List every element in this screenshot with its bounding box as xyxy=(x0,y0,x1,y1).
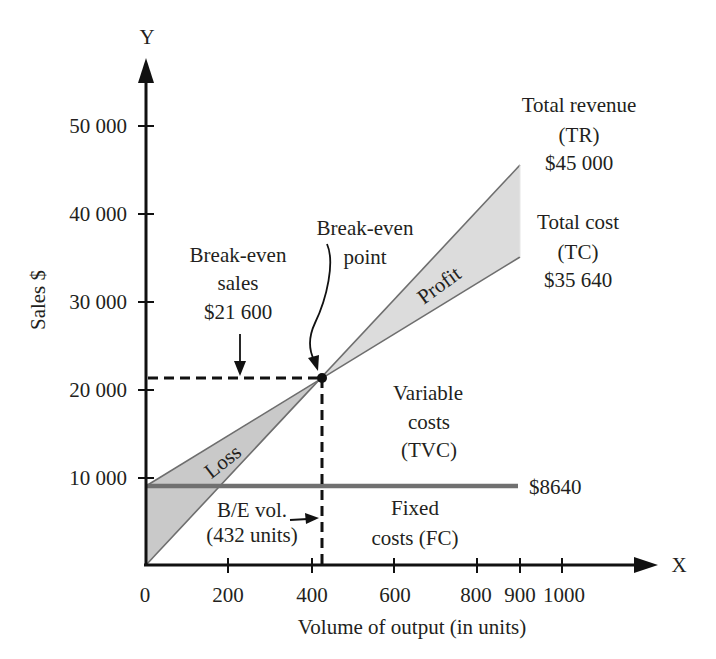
be-point-arrow xyxy=(310,244,330,360)
be-point-arrow-head-icon xyxy=(308,355,319,371)
y-axis-letter: Y xyxy=(139,25,154,49)
x-tick-label: 0 xyxy=(140,583,151,607)
x-axis-title: Volume of output (in units) xyxy=(298,615,526,639)
svg-text:Break-even: Break-even xyxy=(317,216,414,240)
fixed-costs-annotation: Fixed costs (FC) xyxy=(372,496,459,550)
svg-text:costs: costs xyxy=(408,410,450,434)
x-tick-label: 200 xyxy=(212,583,244,607)
variable-costs-annotation: Variable costs (TVC) xyxy=(393,381,463,462)
y-tick-label: 20 000 xyxy=(69,378,127,402)
svg-text:$35 640: $35 640 xyxy=(544,268,612,292)
be-vol-arrow-head-icon xyxy=(305,513,319,524)
svg-text:$45 000: $45 000 xyxy=(545,151,613,175)
svg-text:Break-even: Break-even xyxy=(190,243,287,267)
x-tick-label: 600 xyxy=(379,583,411,607)
break-even-point-marker xyxy=(317,373,327,383)
y-tick-label: 40 000 xyxy=(69,202,127,226)
be-vol-arrow xyxy=(290,519,308,520)
svg-text:costs (FC): costs (FC) xyxy=(372,526,459,550)
total-revenue-annotation: Total revenue (TR) $45 000 xyxy=(522,93,637,175)
fixed-cost-value-label: $8640 xyxy=(529,475,582,499)
y-axis-arrow-icon xyxy=(138,58,154,83)
break-even-point-annotation: Break-even point xyxy=(317,216,414,269)
x-axis-letter: X xyxy=(671,553,686,577)
svg-text:Total revenue: Total revenue xyxy=(522,93,637,117)
total-cost-line xyxy=(146,257,520,486)
x-axis-arrow-icon xyxy=(634,557,658,573)
svg-text:B/E vol.: B/E vol. xyxy=(217,498,287,522)
x-tick-label: 400 xyxy=(296,583,328,607)
x-tick-label: 900 xyxy=(504,583,536,607)
be-sales-arrow-head-icon xyxy=(234,361,246,376)
svg-text:(TVC): (TVC) xyxy=(401,438,457,462)
svg-text:(TC): (TC) xyxy=(558,240,599,264)
svg-text:Total cost: Total cost xyxy=(537,210,619,234)
y-tick-label: 30 000 xyxy=(69,290,127,314)
svg-text:(432 units): (432 units) xyxy=(206,523,298,547)
y-axis-title: Sales $ xyxy=(26,270,50,330)
y-tick-label: 50 000 xyxy=(69,114,127,138)
break-even-sales-annotation: Break-even sales $21 600 xyxy=(190,243,287,324)
svg-text:Variable: Variable xyxy=(393,381,463,405)
total-cost-annotation: Total cost (TC) $35 640 xyxy=(537,210,619,292)
break-even-volume-annotation: B/E vol. (432 units) xyxy=(206,498,298,547)
x-tick-label: 1000 xyxy=(543,583,585,607)
break-even-chart: Y X Sales $ Volume of output (in units) … xyxy=(0,0,716,659)
svg-text:Fixed: Fixed xyxy=(391,496,439,520)
svg-text:sales: sales xyxy=(218,271,259,295)
svg-text:(TR): (TR) xyxy=(559,123,600,147)
x-tick-label: 800 xyxy=(460,583,492,607)
svg-text:$21 600: $21 600 xyxy=(204,300,272,324)
svg-text:point: point xyxy=(343,245,386,269)
y-tick-label: 10 000 xyxy=(69,466,127,490)
